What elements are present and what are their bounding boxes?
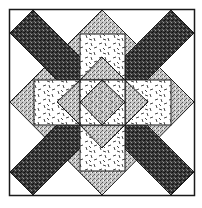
quilt-block-svg: [0, 0, 202, 208]
quilt-block: [0, 0, 202, 208]
